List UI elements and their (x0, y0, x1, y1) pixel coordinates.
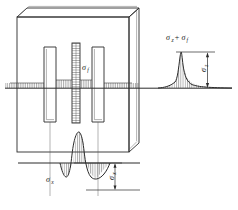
peak-sum-sub-2: f (187, 37, 190, 43)
peak-sum-sigma-1: σ (166, 33, 171, 42)
sigma-z-arrow-top (206, 52, 209, 57)
stress-band-right (104, 83, 139, 88)
left-slot-inner (46, 49, 54, 120)
right-peak-curve (158, 52, 232, 88)
sigma-x-left-sub: x (50, 179, 54, 185)
sigma-x-arrow-top (114, 163, 117, 168)
figure-root: σ z + σ f σ z σ f (0, 0, 238, 210)
slab-top-face (17, 8, 139, 17)
central-web-hatch (72, 43, 80, 123)
stress-distribution-diagram: σ z + σ f σ z σ f (0, 0, 238, 210)
right-peak-chart: σ z + σ f σ z (155, 33, 235, 90)
bottom-sigma-x-chart: σ x σ x (18, 128, 140, 190)
peak-sum-sub-1: z (170, 37, 174, 43)
right-peak-hatch (155, 48, 235, 90)
stress-band-left (5, 83, 44, 88)
central-web (72, 43, 80, 123)
sigma-f-sub: f (87, 67, 90, 73)
peak-sum-label: σ z + σ f (166, 33, 190, 43)
left-slot (44, 47, 56, 122)
right-slot-inner (94, 49, 102, 120)
sigma-x-dim-sub: x (111, 172, 117, 176)
sigma-f-label: σ f (82, 63, 90, 73)
slab-right-face (129, 8, 139, 152)
stress-band-mid-left (56, 80, 72, 88)
stress-band-mid-right (80, 80, 92, 88)
sigma-z-dim-sub: z (203, 64, 209, 68)
right-slot (92, 47, 104, 122)
peak-sum-operator: + (175, 33, 180, 42)
sigma-x-arrow-bottom (114, 185, 117, 190)
